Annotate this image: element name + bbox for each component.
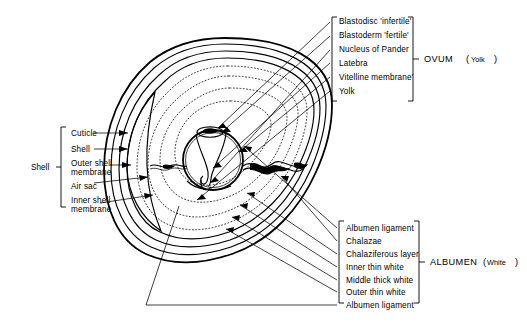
label-albumen-ligament-lower: Albumen ligament — [346, 301, 415, 310]
blastodisc-core — [203, 128, 217, 134]
diagram-canvas: Shell Cuticle Shell Outer shell membrane… — [0, 0, 527, 326]
label-blastodisc-infertile: Blastodisc 'infertile' — [339, 17, 412, 26]
chalaza-right — [243, 162, 308, 175]
label-yolk: Yolk — [339, 87, 356, 96]
ovum-group-label-paren-close: ) — [494, 54, 497, 64]
label-chalaziferous-layer: Chalaziferous layer — [346, 250, 419, 259]
label-inner-shell-membrane: Inner shell — [71, 196, 110, 205]
albumen-group-label-paren-open: ( — [483, 257, 486, 267]
shell-group-bracket — [56, 127, 66, 207]
chalaza-left — [150, 164, 187, 170]
label-cuticle: Cuticle — [71, 129, 97, 138]
albumen-group-label: ALBUMEN ( White ) — [430, 257, 518, 267]
label-blastoderm-fertile: Blastoderm 'fertile' — [339, 31, 409, 40]
label-inner-thin-white: Inner thin white — [346, 263, 404, 272]
albumen-group-label-sub: White — [487, 258, 506, 267]
egg-outline-inner-shell-membrane — [127, 58, 314, 239]
label-outer-thin-white: Outer thin white — [346, 288, 406, 297]
albumen-group-label-main: ALBUMEN — [430, 257, 477, 267]
label-outer-shell-membrane: Outer shell — [71, 159, 112, 168]
air-sac — [127, 92, 161, 231]
albumen-group-label-paren-close: ) — [515, 257, 518, 267]
label-outer-shell-membrane-line2: membrane — [71, 168, 112, 177]
label-albumen-ligament-upper: Albumen ligament — [346, 224, 415, 233]
label-middle-thick-white: Middle thick white — [346, 276, 414, 285]
label-air-sac: Air sac — [71, 182, 97, 191]
ovum-group-label-main: OVUM — [424, 54, 453, 64]
label-latebra: Latebra — [339, 59, 368, 68]
label-shell: Shell — [71, 145, 90, 154]
shell-group-label: Shell — [31, 163, 49, 172]
label-nucleus-of-pander: Nucleus of Pander — [339, 45, 409, 54]
label-inner-shell-membrane-line2: membrane — [71, 205, 112, 214]
label-vitelline-membrane: Vitelline membrane' — [339, 73, 414, 82]
egg-structure-diagram: Shell Cuticle Shell Outer shell membrane… — [0, 0, 527, 326]
ovum-group-label: OVUM ( Yolk ) — [424, 54, 497, 64]
ovum-group-label-sub: Yolk — [471, 55, 485, 64]
egg-outline-shell — [111, 44, 326, 255]
label-chalazae: Chalazae — [346, 237, 382, 246]
ovum-group-label-paren-open: ( — [466, 54, 469, 64]
